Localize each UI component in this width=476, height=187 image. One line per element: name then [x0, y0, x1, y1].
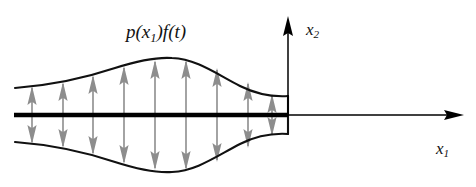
load-arrow-up — [119, 66, 128, 115]
x2-axis-label: x2 — [306, 21, 319, 40]
load-arrow-up — [243, 82, 252, 115]
load-arrow-up — [88, 75, 97, 115]
load-arrows-lower — [27, 115, 276, 170]
x2-label-subscript: 2 — [314, 28, 320, 40]
load-arrow-up — [27, 86, 36, 115]
distributed-load-diagram: p(x1)f(t) x2 x1 — [0, 0, 476, 187]
load-arrow-down — [119, 115, 128, 164]
x1-axis-label: x1 — [436, 140, 449, 159]
load-arrow-down — [267, 115, 276, 136]
load-label-p: p — [126, 21, 136, 42]
x1-label-base: x — [436, 139, 444, 158]
load-arrow-up — [58, 82, 67, 115]
load-arrow-down — [150, 115, 159, 170]
load-arrow-up — [150, 60, 159, 115]
x2-axis — [283, 16, 293, 115]
load-arrow-up — [181, 60, 190, 115]
load-arrow-down — [243, 115, 252, 148]
load-label: p(x1)f(t) — [126, 22, 186, 44]
load-arrow-down — [88, 115, 97, 155]
x1-axis — [288, 110, 464, 120]
load-arrow-down — [27, 115, 36, 144]
x1-label-subscript: 1 — [444, 147, 450, 159]
load-label-close-paren-2: ) — [180, 21, 186, 42]
load-arrow-down — [58, 115, 67, 148]
load-arrow-down — [181, 115, 190, 170]
x2-label-base: x — [306, 20, 314, 39]
load-label-x: x — [142, 21, 150, 42]
load-arrows-upper — [27, 60, 276, 115]
diagram-canvas — [0, 0, 476, 187]
load-arrow-up — [267, 94, 276, 115]
